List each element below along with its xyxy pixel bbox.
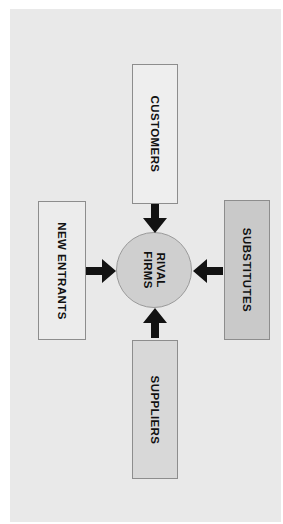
- diagram-canvas: CUSTOMERS NEW ENTRANTS SUBSTITUTES SUPPL…: [10, 9, 281, 522]
- force-box-substitutes[interactable]: SUBSTITUTES: [224, 200, 270, 340]
- arrow-up-icon: [142, 307, 168, 339]
- force-label-customers: CUSTOMERS: [149, 96, 161, 173]
- force-box-new-entrants[interactable]: NEW ENTRANTS: [38, 201, 86, 340]
- center-node-label: RIVAL FIRMS: [141, 251, 167, 288]
- force-label-substitutes: SUBSTITUTES: [241, 228, 253, 312]
- force-label-suppliers: SUPPLIERS: [149, 375, 161, 444]
- center-node-rival-firms[interactable]: RIVAL FIRMS: [116, 232, 192, 308]
- center-node-label-line2: FIRMS: [142, 251, 154, 288]
- force-box-customers[interactable]: CUSTOMERS: [132, 64, 178, 204]
- porters-five-forces-diagram: CUSTOMERS NEW ENTRANTS SUBSTITUTES SUPPL…: [0, 0, 283, 524]
- force-box-suppliers[interactable]: SUPPLIERS: [132, 340, 178, 479]
- center-node-label-line1: RIVAL: [155, 252, 167, 287]
- arrow-down-icon: [142, 204, 168, 234]
- arrow-right-icon: [86, 258, 117, 284]
- arrow-left-icon: [192, 258, 223, 284]
- force-label-new-entrants: NEW ENTRANTS: [56, 222, 68, 319]
